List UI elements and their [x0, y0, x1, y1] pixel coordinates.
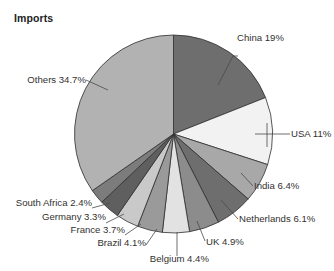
slice-label-france: France 3.7% — [71, 225, 125, 235]
slice-label-belgium: Belgium 4.4% — [150, 254, 209, 264]
leader-line-france — [125, 224, 141, 235]
leader-line-brazil — [146, 229, 157, 245]
slice-label-usa: USA 11% — [291, 129, 331, 139]
slice-label-netherlands: Netherlands 6.1% — [239, 214, 315, 224]
slice-label-brazil: Brazil 4.1% — [97, 238, 146, 248]
pie-slices-group — [74, 35, 272, 233]
slice-label-germany: Germany 3.3% — [42, 212, 106, 222]
slice-label-uk: UK 4.9% — [206, 237, 244, 247]
slice-label-others: Others 34.7% — [27, 75, 86, 85]
slice-label-india: India 6.4% — [254, 181, 299, 191]
slice-label-china: China 19% — [237, 33, 284, 43]
pie-chart-figure: Imports China 19% USA 11% India 6.4% Net… — [0, 0, 334, 271]
slice-label-south-africa: South Africa 2.4% — [16, 198, 92, 208]
